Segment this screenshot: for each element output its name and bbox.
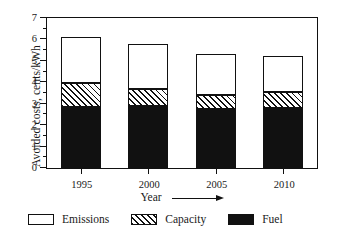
bar-segment-emissions-2005 bbox=[196, 54, 236, 95]
bar-segment-fuel-2010 bbox=[263, 108, 303, 168]
white-box-swatch bbox=[28, 214, 54, 225]
y-axis-tick: 4 bbox=[40, 81, 47, 82]
y-axis-tick: 0 bbox=[40, 167, 47, 168]
plot-inner: 012345671995200020052010 bbox=[47, 18, 317, 168]
bar-segment-fuel-2005 bbox=[196, 109, 236, 168]
legend-label: Fuel bbox=[262, 213, 282, 225]
y-axis-tick: 2 bbox=[40, 124, 47, 125]
legend-label: Emissions bbox=[62, 213, 109, 225]
y-axis-minor-tick bbox=[43, 92, 47, 93]
x-axis-tick-label: 2010 bbox=[261, 179, 307, 190]
x-axis-tick-label: 2005 bbox=[194, 179, 240, 190]
legend-item-fuel[interactable]: Fuel bbox=[228, 213, 282, 225]
y-axis-tick-label: 3 bbox=[15, 97, 37, 110]
bar-segment-capacity-2000 bbox=[128, 89, 168, 106]
legend-item-capacity[interactable]: Capacity bbox=[131, 213, 206, 225]
y-axis-minor-tick bbox=[43, 135, 47, 136]
y-axis-tick: 3 bbox=[40, 103, 47, 104]
y-axis-tick-label: 4 bbox=[15, 75, 37, 88]
x-axis-tick: 2005 bbox=[216, 168, 217, 174]
y-axis-minor-tick bbox=[43, 113, 47, 114]
right-arrow-icon bbox=[172, 194, 224, 202]
x-axis-tick: 2000 bbox=[148, 168, 149, 174]
bar-segment-emissions-2010 bbox=[263, 56, 303, 93]
y-axis-minor-tick bbox=[43, 28, 47, 29]
y-axis-minor-tick bbox=[43, 49, 47, 50]
bar-segment-emissions-1995 bbox=[61, 37, 101, 84]
y-axis-tick-label: 1 bbox=[15, 140, 37, 153]
y-axis-tick: 5 bbox=[40, 60, 47, 61]
legend-label: Capacity bbox=[165, 213, 206, 225]
bar-segment-emissions-2000 bbox=[128, 44, 168, 89]
y-axis-tick: 7 bbox=[40, 17, 47, 18]
y-axis-tick-label: 0 bbox=[15, 161, 37, 174]
plot-area: 012345671995200020052010 bbox=[46, 17, 318, 169]
x-axis-tick: 1995 bbox=[81, 168, 82, 174]
avoided-costs-stacked-bar-chart: Avoided costs, cents/kWh 012345671995200… bbox=[0, 0, 347, 243]
bar-segment-capacity-2010 bbox=[263, 92, 303, 107]
x-axis-tick-label: 1995 bbox=[59, 179, 105, 190]
bar-segment-fuel-1995 bbox=[61, 107, 101, 168]
bar-segment-capacity-2005 bbox=[196, 95, 236, 109]
y-axis-tick-label: 5 bbox=[15, 54, 37, 67]
y-axis-tick-label: 6 bbox=[15, 32, 37, 45]
y-axis-tick: 6 bbox=[40, 38, 47, 39]
bar-1995 bbox=[61, 37, 101, 168]
bar-2010 bbox=[263, 56, 303, 169]
legend: EmissionsCapacityFuel bbox=[28, 213, 328, 225]
bar-2000 bbox=[128, 44, 168, 168]
y-axis-tick-label: 7 bbox=[15, 11, 37, 24]
bar-segment-fuel-2000 bbox=[128, 106, 168, 168]
bar-segment-capacity-1995 bbox=[61, 83, 101, 107]
x-axis-title: Year bbox=[46, 191, 318, 203]
y-axis-minor-tick bbox=[43, 71, 47, 72]
x-axis-title-text: Year bbox=[140, 191, 161, 203]
y-axis-tick-label: 2 bbox=[15, 118, 37, 131]
black-box-swatch bbox=[228, 214, 254, 225]
y-axis-tick: 1 bbox=[40, 146, 47, 147]
x-axis-tick: 2010 bbox=[283, 168, 284, 174]
legend-item-emissions[interactable]: Emissions bbox=[28, 213, 109, 225]
x-axis-tick-label: 2000 bbox=[126, 179, 172, 190]
bar-2005 bbox=[196, 54, 236, 168]
hatched-box-swatch bbox=[131, 214, 157, 225]
y-axis-minor-tick bbox=[43, 156, 47, 157]
